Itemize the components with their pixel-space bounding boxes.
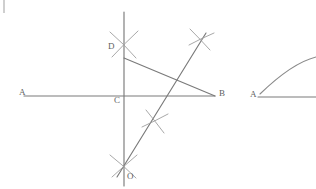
label-point-O: O [127, 172, 134, 181]
label-point-C: C [114, 96, 120, 105]
label-point-A-left: A [19, 88, 26, 97]
construction-drawing [0, 0, 316, 189]
line-O-to-upper-right [117, 33, 206, 177]
right-construction-group [258, 57, 316, 97]
construction-arc-from-A [260, 57, 316, 94]
label-point-B: B [219, 89, 225, 98]
segment-DB [124, 58, 215, 96]
geometry-figure-canvas: A B C D O A [0, 0, 316, 189]
label-point-D: D [108, 42, 115, 51]
label-point-A-right: A [250, 90, 257, 99]
